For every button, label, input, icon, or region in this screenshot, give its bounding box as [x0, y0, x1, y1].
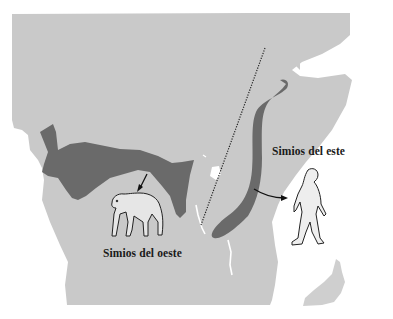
hominid-icon: [292, 169, 326, 245]
east-apes-label: Simios del este: [272, 145, 345, 157]
madagascar: [303, 259, 345, 306]
africa-map: [0, 0, 393, 319]
west-apes-label: Simios del oeste: [103, 247, 182, 259]
